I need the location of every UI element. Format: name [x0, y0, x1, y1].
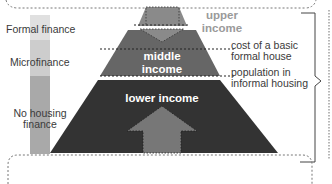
upper-income-line2: income: [197, 22, 247, 35]
no-housing-finance-line2: finance: [12, 119, 68, 130]
lower-income-label: lower income: [112, 92, 212, 105]
upper-income-label: upper income: [197, 9, 247, 35]
microfinance-label: Microfinance: [10, 57, 70, 68]
bottom-dashed-region: [8, 155, 312, 184]
upper-income-line1: upper: [197, 9, 247, 22]
house-cost-line2: formal house: [231, 51, 298, 62]
house-cost-label: cost of a basic formal house: [231, 40, 298, 62]
no-housing-finance-label: No housing finance: [12, 108, 68, 130]
middle-income-line2: income: [130, 63, 194, 76]
middle-income-line1: middle: [130, 50, 194, 63]
informal-housing-line2: informal housing: [231, 78, 308, 89]
informal-housing-label: population in informal housing: [231, 67, 308, 89]
middle-income-label: middle income: [130, 50, 194, 76]
formal-finance-label: Formal finance: [6, 24, 75, 35]
upper-income-tier: [138, 7, 187, 26]
